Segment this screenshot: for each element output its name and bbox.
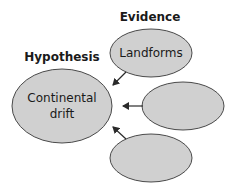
- evidence-node-landforms: Landforms: [110, 29, 192, 77]
- hypothesis-node: Continental drift: [12, 69, 112, 143]
- arrow-landforms-to-hypothesis: [113, 72, 126, 85]
- hypothesis-label-line1: Continental: [27, 91, 96, 105]
- evidence-node-blank-right: [142, 82, 224, 130]
- hypothesis-label-line2: drift: [50, 107, 75, 121]
- evidence-label-landforms: Landforms: [119, 46, 183, 60]
- evidence-node-blank-bottom: [110, 134, 192, 182]
- arrow-bottom-to-hypothesis: [113, 127, 126, 139]
- hypothesis-heading: Hypothesis: [24, 50, 100, 64]
- concept-map: Evidence Hypothesis Continental drift La…: [0, 0, 234, 194]
- evidence-heading: Evidence: [120, 10, 181, 24]
